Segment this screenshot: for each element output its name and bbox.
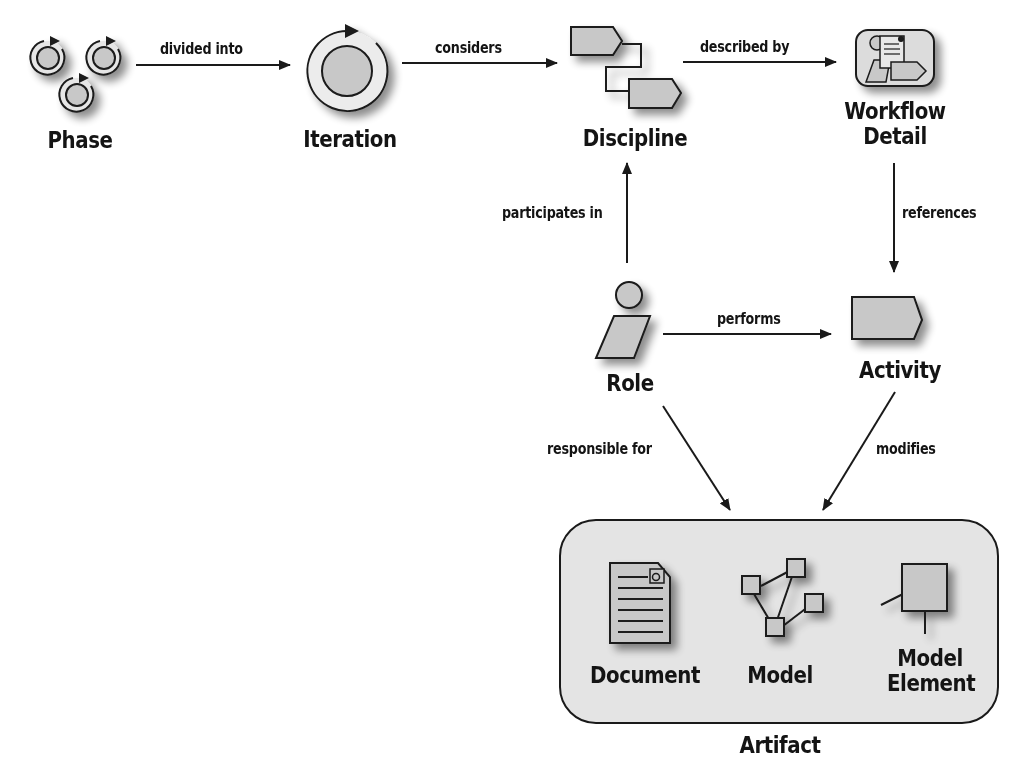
- model-label: Model: [741, 662, 818, 688]
- workflow-detail-label-line2: Detail: [843, 123, 946, 149]
- workflow-detail-icon: [856, 30, 934, 86]
- role-person-icon: [596, 282, 650, 358]
- activity-label: Activity: [848, 357, 951, 383]
- iteration-cycle-icon: [307, 24, 387, 111]
- edge-label-described-by: described by: [700, 38, 789, 56]
- edges: [136, 62, 895, 510]
- edge-label-performs: performs: [717, 310, 780, 328]
- role-label: Role: [591, 370, 668, 396]
- activity-pentagon-icon: [852, 297, 922, 339]
- phase-label: Phase: [37, 127, 123, 153]
- edge-label-modifies: modifies: [876, 440, 936, 458]
- model-element-label-line2: Element: [887, 670, 973, 696]
- edge-label-participates-in: participates in: [502, 204, 603, 222]
- edge-label-references: references: [902, 204, 976, 222]
- discipline-label: Discipline: [575, 125, 695, 151]
- workflow-detail-label-line1: Workflow: [843, 98, 946, 124]
- edge-label-divided-into: divided into: [160, 40, 243, 58]
- edge-label-responsible-for: responsible for: [547, 440, 652, 458]
- model-element-label-line1: Model: [887, 645, 973, 671]
- artifact-label: Artifact: [733, 732, 828, 758]
- iteration-label: Iteration: [298, 126, 401, 152]
- document-icon: [610, 563, 670, 643]
- metamodel-diagram: Phase Iteration Discipline Workflow Deta…: [0, 0, 1030, 783]
- document-label: Document: [589, 662, 701, 688]
- phase-cycles-icon: [30, 36, 121, 112]
- discipline-workflow-icon: [571, 27, 681, 108]
- edge-label-considers: considers: [435, 39, 502, 57]
- edge-responsible-for: [663, 406, 730, 510]
